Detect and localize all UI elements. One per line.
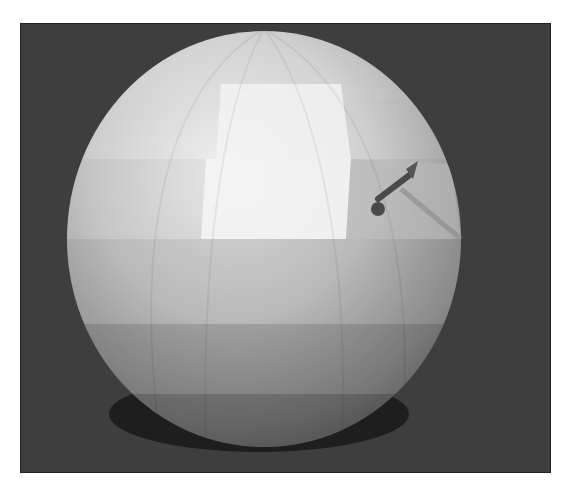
sphere	[61, 29, 471, 454]
render-viewport	[20, 23, 551, 473]
sphere-render	[21, 24, 551, 473]
